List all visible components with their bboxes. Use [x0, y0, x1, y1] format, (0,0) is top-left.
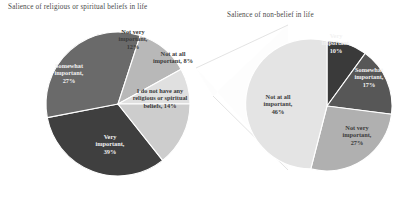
left-label-not-at-all-important: Not at all important, 8%: [142, 50, 204, 65]
pie-of-pie-figure: Salience of religious or spiritual belie…: [0, 0, 411, 202]
right-label-not-at-all-important: Not at all important, 46%: [249, 93, 307, 115]
left-label-very-important: Very important, 39%: [82, 133, 138, 155]
left-label-not-very-important: Not very important, 12%: [110, 28, 156, 50]
right-label-somewhat-important: Somewhat important, 17%: [340, 66, 398, 88]
right-pie-chart: [0, 0, 411, 202]
right-chart-title: Salience of non-belief in life: [227, 11, 314, 19]
right-label-very-important: Very important, 10%: [312, 32, 360, 54]
left-chart-title: Salience of religious or spiritual belie…: [8, 3, 147, 11]
left-label-no-religious-beliefs: I do not have any religious or spiritual…: [122, 87, 198, 109]
left-label-somewhat-important: Somewhat important, 27%: [38, 62, 100, 84]
right-label-not-very-important: Not very important, 27%: [328, 124, 386, 146]
